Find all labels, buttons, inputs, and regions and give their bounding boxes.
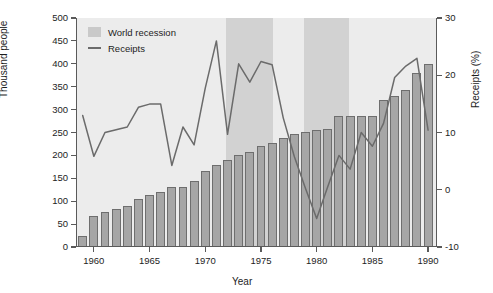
y-axis-right-title: Receipts (%) (470, 51, 481, 108)
receipts-line-icon (88, 47, 101, 49)
x-axis-tick-label: 1960 (80, 255, 108, 266)
x-axis-tick-label: 1970 (191, 255, 219, 266)
y-axis-left-tick-mark (71, 201, 76, 202)
y-axis-left-tick-mark (71, 109, 76, 110)
x-axis-title: Year (232, 276, 252, 287)
y-axis-left-tick-mark (71, 40, 76, 41)
x-axis-tick-mark (149, 247, 150, 252)
x-axis-tick-mark (93, 247, 94, 252)
y-axis-left-tick-label: 50 (34, 218, 68, 229)
legend-label-receipts: Receipts (108, 43, 145, 54)
y-axis-right-tick-label: 30 (445, 12, 479, 23)
y-axis-left-tick-label: 500 (34, 12, 68, 23)
y-axis-left-tick-label: 150 (34, 172, 68, 183)
recession-swatch-icon (88, 27, 101, 37)
y-axis-left-tick-mark (71, 86, 76, 87)
y-axis-right-tick-label: 10 (445, 127, 479, 138)
y-axis-left-tick-label: 400 (34, 58, 68, 69)
legend-item-receipts: Receipts (88, 41, 176, 55)
y-axis-left-tick-mark (71, 246, 76, 247)
chart-figure: 050100150200250300350400450500 -10010203… (0, 0, 493, 293)
y-axis-right-tick-label: 0 (445, 184, 479, 195)
y-axis-left-tick-label: 250 (34, 127, 68, 138)
x-axis-tick-label: 1990 (414, 255, 442, 266)
x-axis-tick-label: 1965 (136, 255, 164, 266)
x-axis-tick-mark (205, 247, 206, 252)
y-axis-left-tick-mark (71, 224, 76, 225)
x-axis-tick-label: 1980 (303, 255, 331, 266)
y-axis-right-tick-mark (437, 246, 442, 247)
legend-label-world-recession: World recession (108, 27, 176, 38)
y-axis-left-tick-mark (71, 155, 76, 156)
y-axis-left-tick-label: 100 (34, 195, 68, 206)
y-axis-right-tick-mark (437, 17, 442, 18)
y-axis-left-tick-mark (71, 132, 76, 133)
y-axis-left-tick-mark (71, 178, 76, 179)
x-axis-tick-mark (427, 247, 428, 252)
y-axis-left-tick-label: 200 (34, 149, 68, 160)
receipts-line (83, 41, 428, 219)
x-axis-tick-label: 1985 (358, 255, 386, 266)
x-axis-tick-label: 1975 (247, 255, 275, 266)
y-axis-left-tick-label: 300 (34, 104, 68, 115)
x-axis-tick-mark (260, 247, 261, 252)
y-axis-left-tick-mark (71, 63, 76, 64)
y-axis-left-title: Thousand people (0, 21, 9, 98)
legend-item-world-recession: World recession (88, 25, 176, 39)
y-axis-left-tick-label: 0 (34, 241, 68, 252)
x-axis-tick-mark (316, 247, 317, 252)
y-axis-left-tick-label: 450 (34, 35, 68, 46)
y-axis-right-tick-mark (437, 189, 442, 190)
chart-legend: World recession Receipts (88, 25, 176, 57)
x-axis-tick-mark (372, 247, 373, 252)
y-axis-right-tick-mark (437, 75, 442, 76)
y-axis-left-tick-mark (71, 17, 76, 18)
y-axis-right-tick-label: -10 (445, 241, 479, 252)
y-axis-right-tick-mark (437, 132, 442, 133)
y-axis-left-tick-label: 350 (34, 81, 68, 92)
